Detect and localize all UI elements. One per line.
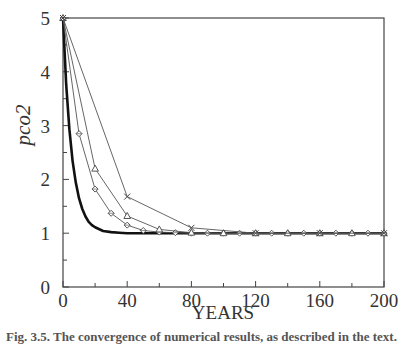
y-tick-label: 0 — [41, 277, 51, 298]
y-tick-label: 4 — [41, 62, 51, 83]
series-exact-solution — [63, 18, 384, 233]
x-marker — [124, 194, 130, 200]
y-axis-label: pco2 — [11, 104, 35, 147]
y-tick-label: 2 — [41, 169, 51, 190]
y-tick-label: 3 — [41, 116, 51, 137]
x-tick-label: 40 — [118, 290, 137, 311]
x-tick-label: 0 — [58, 290, 68, 311]
triangle-marker — [92, 165, 99, 171]
series-step-10 — [60, 15, 387, 236]
series-step-20 — [60, 15, 388, 236]
y-tick-label: 5 — [41, 8, 51, 29]
x-tick-label: 200 — [370, 290, 399, 311]
data-series — [60, 15, 388, 237]
x-tick-label: 160 — [306, 290, 335, 311]
series-step-40 — [60, 15, 387, 236]
triangle-marker — [156, 226, 163, 232]
y-tick-label: 1 — [41, 223, 51, 244]
figure-caption: Fig. 3.5. The convergence of numerical r… — [6, 329, 397, 345]
x-axis-label: YEARS — [192, 302, 254, 323]
